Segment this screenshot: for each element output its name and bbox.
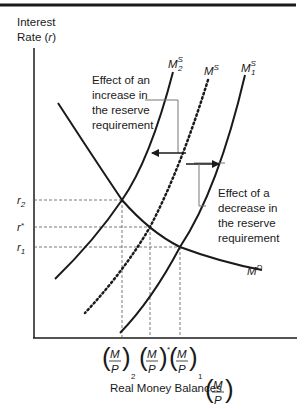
svg-text:decrease in: decrease in xyxy=(218,202,277,214)
svg-text:M: M xyxy=(110,348,120,360)
svg-text:): ) xyxy=(189,342,198,372)
ms2-label: MS2 xyxy=(168,55,184,73)
svg-text:M: M xyxy=(177,348,187,360)
svg-text:P: P xyxy=(111,363,119,375)
svg-text:the reserve: the reserve xyxy=(218,217,276,229)
svg-text:P: P xyxy=(178,363,186,375)
svg-text:2: 2 xyxy=(131,372,136,381)
x-tick-mp2: ( M P ) 2 xyxy=(102,342,136,381)
ms-label: MS xyxy=(204,63,220,77)
svg-text:Effect of an: Effect of an xyxy=(92,74,150,86)
svg-text:requirement: requirement xyxy=(92,119,154,131)
svg-text:P: P xyxy=(148,363,156,375)
y-axis-label-line2: Rate (r) xyxy=(17,31,56,43)
svg-text:): ) xyxy=(225,374,234,404)
svg-text:M: M xyxy=(213,379,223,391)
y-tick-rstar: r* xyxy=(17,221,25,233)
y-tick-r1: r1 xyxy=(17,241,25,256)
ms1-label: MS1 xyxy=(241,59,257,77)
increase-annotation: Effect of an increase in the reserve req… xyxy=(92,74,186,153)
x-tick-mp1: ( M P ) 1 xyxy=(169,342,203,381)
svg-text:requirement: requirement xyxy=(218,232,280,244)
svg-text:Effect of a: Effect of a xyxy=(218,187,270,199)
y-tick-r2: r2 xyxy=(17,194,26,209)
svg-text:1: 1 xyxy=(198,372,203,381)
money-market-diagram: Interest Rate (r) MS2 MS MS1 MD Effect o… xyxy=(0,0,307,409)
md-label: MD xyxy=(247,263,263,277)
decrease-annotation: Effect of a decrease in the reserve requ… xyxy=(186,163,280,244)
y-axis-label-line1: Interest xyxy=(17,16,56,28)
svg-text:increase in: increase in xyxy=(92,89,148,101)
svg-text:the reserve: the reserve xyxy=(92,104,150,116)
svg-text:): ) xyxy=(122,342,131,372)
x-tick-mpstar: ( M P ) * xyxy=(139,342,170,375)
svg-text:M: M xyxy=(147,348,157,360)
x-axis-label: Real Money Balances ( M P ) xyxy=(110,374,234,406)
svg-text:P: P xyxy=(214,394,222,406)
